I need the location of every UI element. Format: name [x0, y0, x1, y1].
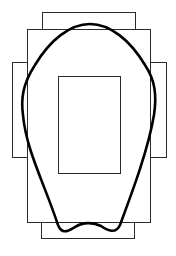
inner-rect [59, 77, 121, 174]
left-side-rect [13, 63, 28, 158]
right-side-rect [151, 63, 167, 158]
rectangles-group [13, 13, 167, 239]
diagram-canvas [0, 0, 176, 256]
bell-curve-outline [22, 24, 155, 231]
top-rect [43, 13, 136, 30]
